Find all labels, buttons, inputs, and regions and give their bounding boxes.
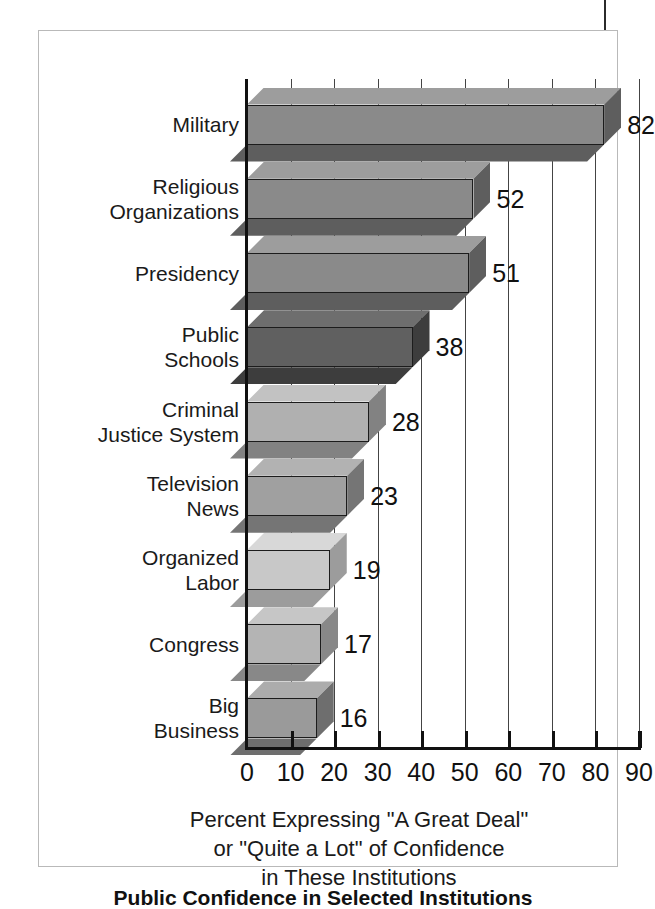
x-axis-tick (508, 731, 511, 748)
x-axis-tick-label: 60 (494, 757, 522, 787)
x-axis-tick-labels: 0102030405060708090 (247, 757, 639, 789)
figure-frame: 825251382823191716 MilitaryReligious Org… (38, 30, 618, 867)
x-axis-tick (465, 731, 468, 748)
x-axis-tick-label: 80 (582, 757, 610, 787)
x-axis-tick-label: 40 (407, 757, 435, 787)
category-label: Public Schools (164, 322, 239, 372)
category-label: Organized Labor (142, 545, 239, 595)
category-axis-labels: MilitaryReligious OrganizationsPresidenc… (79, 79, 239, 747)
x-axis-tick-label: 70 (538, 757, 566, 787)
x-axis-title: Percent Expressing "A Great Deal"or "Qui… (99, 805, 619, 892)
x-axis-tick-label: 0 (240, 757, 254, 787)
bar-outline (247, 698, 317, 738)
x-axis-tick (552, 731, 555, 748)
x-axis-tick (334, 731, 337, 748)
bar-value-label: 16 (340, 706, 368, 731)
x-axis-tick-label: 50 (451, 757, 479, 787)
category-label: Congress (149, 632, 239, 657)
figure-caption: Public Confidence in Selected Institutio… (0, 886, 646, 909)
gridline (639, 79, 640, 747)
category-label: Big Business (154, 693, 239, 743)
category-label: Religious Organizations (109, 174, 239, 224)
bar-series: 825251382823191716 (247, 79, 639, 747)
x-axis-title-line: Percent Expressing "A Great Deal" (99, 805, 619, 834)
x-axis-tick-label: 30 (364, 757, 392, 787)
x-axis-tick (421, 731, 424, 748)
x-axis-tick-label: 10 (277, 757, 305, 787)
x-axis-title-line: or "Quite a Lot" of Confidence (99, 834, 619, 863)
category-label: Military (173, 112, 240, 137)
x-axis-tick (639, 731, 642, 748)
category-label: Presidency (135, 261, 239, 286)
category-label: Television News (147, 471, 239, 521)
plot-area: 825251382823191716 (247, 79, 639, 747)
bar: 16 (247, 79, 639, 747)
x-axis-tick (595, 731, 598, 748)
x-axis-tick-label: 90 (625, 757, 653, 787)
category-label: Criminal Justice System (98, 397, 239, 447)
x-axis-tick (291, 731, 294, 748)
y-axis-line (245, 79, 248, 749)
x-axis-line (245, 747, 641, 750)
x-axis-tick (378, 731, 381, 748)
x-axis-tick-label: 20 (320, 757, 348, 787)
